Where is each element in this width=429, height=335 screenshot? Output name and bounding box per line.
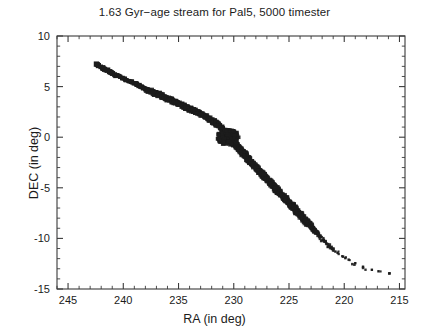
scatter-plot: 2452402352302252202151050-5-10-15 [0, 0, 429, 335]
data-point [334, 250, 336, 252]
data-point [362, 266, 364, 268]
y-tick-label: -15 [34, 283, 50, 295]
x-tick-label: 215 [390, 294, 408, 306]
x-tick-label: 240 [114, 294, 132, 306]
data-point [388, 272, 390, 274]
y-tick-label: 5 [44, 81, 50, 93]
data-point [326, 246, 328, 248]
data-point [331, 248, 333, 250]
y-tick-label: -5 [40, 182, 50, 194]
x-tick-label: 220 [335, 294, 353, 306]
y-axis-label: DEC (in deg) [27, 83, 41, 243]
y-tick-label: 10 [38, 30, 50, 42]
x-tick-label: 245 [59, 294, 77, 306]
data-point [336, 252, 338, 254]
data-point [380, 270, 382, 272]
data-point [371, 269, 373, 271]
x-tick-label: 225 [280, 294, 298, 306]
data-point [344, 257, 346, 259]
figure-panel: 1.63 Gyr−age stream for Pal5, 5000 times… [0, 0, 429, 335]
x-axis-label: RA (in deg) [0, 312, 429, 326]
data-point [219, 138, 222, 141]
data-point [347, 258, 349, 260]
y-tick-label: 0 [44, 131, 50, 143]
data-point [354, 262, 356, 264]
x-tick-label: 230 [225, 294, 243, 306]
data-point [232, 129, 236, 133]
data-point [220, 132, 223, 135]
data-point [320, 240, 323, 243]
data-point [232, 137, 235, 140]
data-point [217, 134, 220, 137]
data-point [377, 270, 379, 272]
data-point [227, 140, 231, 144]
x-tick-label: 235 [169, 294, 187, 306]
data-point [342, 255, 344, 257]
data-point [222, 141, 225, 144]
data-point [233, 134, 236, 137]
data-point [224, 129, 228, 133]
data-point [364, 269, 366, 271]
